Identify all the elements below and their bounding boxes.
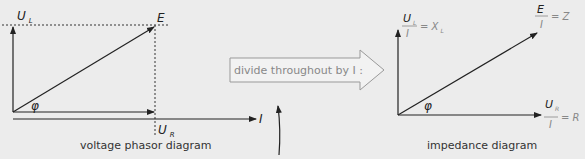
svg-text:UR: UR [545, 98, 559, 112]
label-phi-right: φ [424, 99, 432, 113]
voltage-phasor-diagram: UL E φ UR I voltage phasor diagram [2, 9, 263, 152]
divide-text: divide throughout by I : [234, 64, 363, 77]
label-xl: UL I = XL [402, 12, 444, 39]
label-e: E [157, 11, 165, 25]
z-vector [398, 33, 537, 115]
curved-arrow-icon [278, 106, 280, 155]
svg-text:I: I [540, 19, 543, 30]
right-caption: impedance diagram [427, 139, 537, 152]
divide-arrow: divide throughout by I : [230, 50, 384, 90]
label-r: UR I = R [544, 98, 580, 130]
label-i: I [259, 112, 263, 126]
label-z: E I = Z [535, 3, 571, 30]
svg-text:I: I [549, 119, 552, 130]
svg-text:E: E [537, 3, 544, 16]
svg-text:I: I [406, 28, 409, 39]
svg-text:= Z: = Z [551, 11, 571, 22]
left-caption: voltage phasor diagram [80, 139, 212, 152]
svg-text:UL: UL [403, 12, 416, 26]
svg-text:= XL: = XL [420, 21, 444, 34]
label-ul: UL [17, 9, 33, 25]
label-phi: φ [31, 99, 39, 113]
label-ur: UR [158, 123, 175, 139]
phasor-figure: UL E φ UR I voltage phasor diagram divid… [0, 0, 585, 159]
svg-text:= R: = R [561, 112, 580, 123]
impedance-diagram: UL I = XL E I = Z φ UR I = R impedance d… [398, 3, 580, 152]
